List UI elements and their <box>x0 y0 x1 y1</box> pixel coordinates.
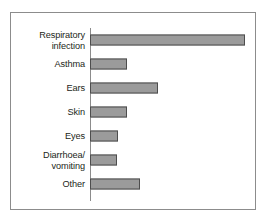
category-label-line: Ears <box>11 83 85 94</box>
bar-row: Other <box>11 172 255 196</box>
chart-figure: Respiratory infection Asthma Ears <box>10 12 256 210</box>
category-label: Diarrhoea/ vomiting <box>11 150 85 171</box>
bar-track <box>90 100 255 124</box>
bar-track <box>90 28 255 52</box>
category-label-line: infection <box>11 40 85 51</box>
category-label: Other <box>11 179 85 190</box>
bar-ears <box>90 83 158 94</box>
bar-asthma <box>90 59 127 70</box>
bar-row: Ears <box>11 76 255 100</box>
bar-track <box>90 124 255 148</box>
category-label: Asthma <box>11 59 85 70</box>
bar-track <box>90 52 255 76</box>
bar-row: Respiratory infection <box>11 28 255 52</box>
bar-track <box>90 76 255 100</box>
category-label: Respiratory infection <box>11 30 85 51</box>
category-label-line: Respiratory <box>11 30 85 41</box>
bar-row: Eyes <box>11 124 255 148</box>
bar-track <box>90 172 255 196</box>
category-label-line: vomiting <box>11 160 85 171</box>
bar-row: Diarrhoea/ vomiting <box>11 148 255 172</box>
category-label-line: Other <box>11 179 85 190</box>
category-label-line: Diarrhoea/ <box>11 150 85 161</box>
bar-eyes <box>90 131 118 142</box>
bar-skin <box>90 107 127 118</box>
category-label-line: Eyes <box>11 131 85 142</box>
category-label-line: Skin <box>11 107 85 118</box>
category-label: Skin <box>11 107 85 118</box>
bar-row: Skin <box>11 100 255 124</box>
bar-row: Asthma <box>11 52 255 76</box>
bar-respiratory-infection <box>90 35 245 46</box>
category-label: Eyes <box>11 131 85 142</box>
bar-other <box>90 179 140 190</box>
bar-track <box>90 148 255 172</box>
bar-diarrhoea-vomiting <box>90 155 117 166</box>
category-label: Ears <box>11 83 85 94</box>
category-label-line: Asthma <box>11 59 85 70</box>
plot-area: Respiratory infection Asthma Ears <box>11 13 255 209</box>
